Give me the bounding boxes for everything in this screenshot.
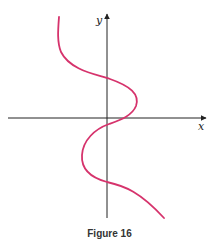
y-axis-label: y bbox=[95, 14, 103, 27]
x-axis-label: x bbox=[198, 120, 205, 133]
graph: y x bbox=[0, 0, 219, 252]
figure-caption: Figure 16 bbox=[0, 228, 219, 239]
